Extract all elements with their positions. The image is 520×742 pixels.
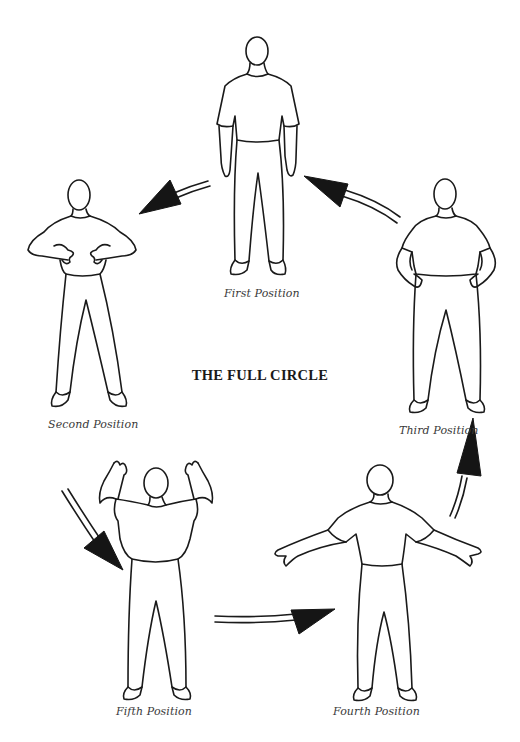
figure-fifth-position	[94, 455, 219, 700]
figure-fourth-position	[270, 462, 485, 702]
caption-first-position: First Position	[224, 287, 300, 300]
caption-third-position: Third Position	[399, 424, 479, 437]
arrow-third-to-first-icon	[304, 176, 400, 223]
figure-first-position	[213, 28, 303, 278]
person-arms-extended-icon	[270, 462, 485, 702]
caption-second-position: Second Position	[48, 418, 138, 431]
person-hands-hips-icon	[390, 170, 510, 415]
arrow-first-to-second-icon	[139, 180, 210, 214]
person-arms-raised-icon	[94, 455, 219, 700]
person-standing-icon	[213, 28, 303, 278]
person-hands-chest-icon	[24, 170, 144, 410]
caption-fifth-position: Fifth Position	[116, 705, 192, 718]
figure-second-position	[24, 170, 144, 410]
full-circle-diagram: THE FULL CIRCLE	[0, 0, 520, 742]
figure-third-position	[390, 170, 510, 415]
caption-fourth-position: Fourth Position	[333, 705, 420, 718]
